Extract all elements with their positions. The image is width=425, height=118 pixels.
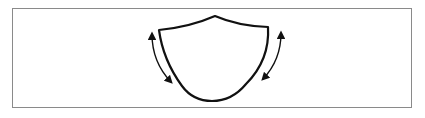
shield-outline-shape [159, 16, 268, 101]
right-curved-double-arrow-icon [263, 33, 281, 79]
shield-diagram [0, 0, 425, 118]
